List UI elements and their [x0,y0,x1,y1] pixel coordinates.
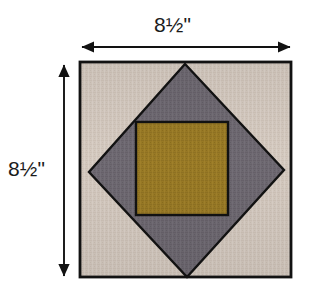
left-dimension-label: 8½" [8,158,45,179]
block-body [80,62,291,277]
quilt-block-drawing [0,0,310,293]
center-square-piece [136,122,228,215]
top-dimension-label: 8½" [154,14,191,35]
quilt-block-figure: 8½" 8½" [0,0,310,293]
